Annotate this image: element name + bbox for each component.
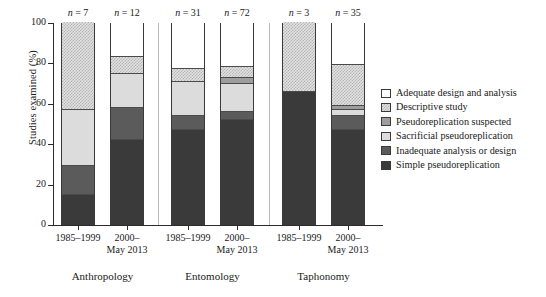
x-axis-tick-label: 2000–May 2013: [305, 232, 391, 256]
legend-swatch-adequate-icon: [381, 89, 391, 98]
x-axis-tick: [237, 225, 238, 230]
stacked-bar[interactable]: [61, 23, 95, 225]
bar-segment-adequate[interactable]: [111, 22, 143, 56]
chart-figure: Studies examined (%) 100806040200 n = 7n…: [0, 0, 546, 297]
bar-segment-sacrificial[interactable]: [221, 83, 253, 111]
legend-swatch-simple-icon: [381, 161, 391, 170]
bar-segment-simple[interactable]: [221, 119, 253, 224]
x-axis-tick: [348, 225, 349, 230]
x-axis-tick-label-line2: May 2013: [84, 244, 170, 256]
stacked-bar[interactable]: [110, 23, 144, 225]
bar-segment-adequate[interactable]: [332, 22, 364, 64]
y-axis-tick-label: 0: [2, 219, 46, 229]
bar-segment-descriptive[interactable]: [332, 64, 364, 104]
bar-segment-inadequate[interactable]: [221, 111, 253, 119]
x-axis-tick: [299, 225, 300, 230]
x-axis-tick: [78, 225, 79, 230]
y-axis-tick-label: 80: [2, 57, 46, 67]
legend-label: Descriptive study: [396, 100, 468, 114]
bar-sample-size-label: n = 12: [97, 7, 157, 18]
legend-item-sacrificial[interactable]: Sacrificial pseudoreplication: [381, 129, 517, 143]
bar-segment-adequate[interactable]: [172, 22, 204, 68]
y-axis-tick-label: 40: [2, 138, 46, 148]
y-axis-tick-label: 20: [2, 179, 46, 189]
y-axis-tick-label: 100: [2, 17, 46, 27]
chart-legend: Adequate design and analysisDescriptive …: [381, 86, 517, 172]
x-axis-line: [53, 225, 383, 226]
bar-segment-sacrificial[interactable]: [111, 73, 143, 107]
bar-segment-inadequate[interactable]: [172, 115, 204, 129]
bar-segment-simple[interactable]: [172, 129, 204, 224]
bar-segment-inadequate[interactable]: [62, 165, 94, 193]
bar-segment-simple[interactable]: [62, 194, 94, 224]
bar-sample-size-label: n = 72: [207, 7, 267, 18]
stacked-bar[interactable]: [220, 23, 254, 225]
legend-item-adequate[interactable]: Adequate design and analysis: [381, 86, 517, 100]
x-axis-tick-label-line2: May 2013: [305, 244, 391, 256]
legend-item-suspected[interactable]: Pseudoreplication suspected: [381, 115, 517, 129]
legend-label: Inadequate analysis or design: [396, 144, 516, 158]
bar-segment-descriptive[interactable]: [111, 56, 143, 72]
legend-swatch-inadequate-icon: [381, 146, 391, 155]
x-axis-tick: [188, 225, 189, 230]
legend-swatch-descriptive-icon: [381, 103, 391, 112]
x-axis-tick: [127, 225, 128, 230]
bar-segment-sacrificial[interactable]: [172, 81, 204, 115]
bar-segment-inadequate[interactable]: [332, 115, 364, 129]
group-separator: [158, 23, 159, 225]
stacked-bar[interactable]: [331, 23, 365, 225]
legend-label: Simple pseudoreplication: [396, 158, 500, 172]
x-axis-tick-label-line2: May 2013: [194, 244, 280, 256]
bar-segment-adequate[interactable]: [221, 22, 253, 66]
y-axis-tick-label: 60: [2, 98, 46, 108]
plot-area: n = 7n = 12n = 31n = 72n = 3n = 35: [53, 23, 383, 225]
group-label-taphonomy: Taphonomy: [254, 270, 394, 282]
bar-segment-simple[interactable]: [111, 139, 143, 224]
group-separator: [269, 23, 270, 225]
stacked-bar[interactable]: [282, 23, 316, 225]
legend-item-inadequate[interactable]: Inadequate analysis or design: [381, 144, 517, 158]
legend-item-descriptive[interactable]: Descriptive study: [381, 100, 517, 114]
stacked-bar[interactable]: [171, 23, 205, 225]
bar-segment-descriptive[interactable]: [283, 22, 315, 91]
legend-swatch-suspected-icon: [381, 117, 391, 126]
bar-segment-descriptive[interactable]: [172, 68, 204, 80]
legend-label: Pseudoreplication suspected: [396, 115, 511, 129]
bar-segment-inadequate[interactable]: [111, 107, 143, 139]
legend-item-simple[interactable]: Simple pseudoreplication: [381, 158, 517, 172]
bar-segment-descriptive[interactable]: [221, 66, 253, 76]
bar-segment-simple[interactable]: [332, 129, 364, 224]
legend-swatch-sacrificial-icon: [381, 132, 391, 141]
bar-segment-descriptive[interactable]: [62, 22, 94, 109]
bar-sample-size-label: n = 35: [318, 7, 378, 18]
bar-segment-simple[interactable]: [283, 91, 315, 224]
bar-segment-sacrificial[interactable]: [62, 109, 94, 166]
legend-label: Adequate design and analysis: [396, 86, 517, 100]
legend-label: Sacrificial pseudoreplication: [396, 129, 513, 143]
